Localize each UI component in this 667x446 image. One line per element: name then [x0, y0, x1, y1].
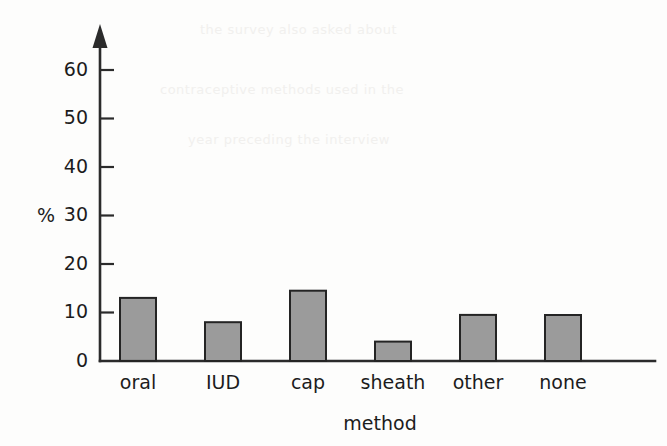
- bar-sheath: [375, 342, 411, 361]
- y-tick-label-20: 20: [64, 252, 88, 274]
- x-axis-tick-labels: oral IUD cap sheath other none: [120, 371, 587, 393]
- x-tick-label-other: other: [453, 371, 504, 393]
- y-tick-label-50: 50: [64, 106, 88, 128]
- y-tick-label-10: 10: [64, 300, 88, 322]
- x-tick-label-iud: IUD: [206, 371, 240, 393]
- x-axis-title: method: [343, 412, 416, 434]
- bars-group: [120, 291, 581, 361]
- chart-canvas: 60 50 40 30 20 10 0 % method o: [0, 0, 667, 446]
- bar-other: [460, 315, 496, 361]
- bar-oral: [120, 298, 156, 361]
- x-tick-label-none: none: [539, 371, 586, 393]
- bar-cap: [290, 291, 326, 361]
- bar-chart-figure: the survey also asked about contraceptiv…: [0, 0, 667, 446]
- x-tick-label-oral: oral: [120, 371, 156, 393]
- y-tick-label-60: 60: [64, 58, 88, 80]
- y-tick-label-0: 0: [76, 349, 88, 371]
- x-tick-label-sheath: sheath: [361, 371, 426, 393]
- x-tick-label-cap: cap: [291, 371, 325, 393]
- y-axis-arrowhead-icon: [93, 24, 108, 48]
- bar-iud: [205, 322, 241, 361]
- y-axis-tick-labels: 60 50 40 30 20 10 0: [64, 58, 88, 371]
- y-axis: 60 50 40 30 20 10 0 %: [37, 24, 114, 371]
- y-axis-title: %: [37, 204, 55, 226]
- y-tick-label-30: 30: [64, 203, 88, 225]
- y-axis-ticks: [100, 70, 114, 313]
- bar-none: [545, 315, 581, 361]
- y-tick-label-40: 40: [64, 155, 88, 177]
